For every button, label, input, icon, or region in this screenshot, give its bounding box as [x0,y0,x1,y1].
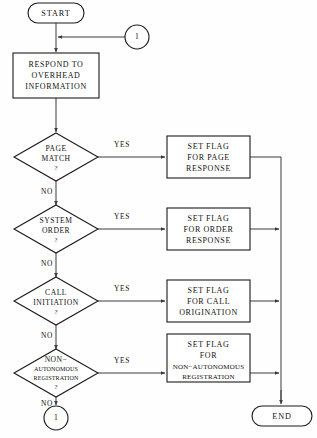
non-autonomous-question: ? [55,383,58,390]
flag-nonauto-line-4: REGISTRATION [182,373,235,381]
non-autonomous-line-1: NON− [45,355,68,364]
node-non-autonomous-registration[interactable]: NON− AUTONOMOUS REGISTRATION ? [14,349,98,397]
flag-nonauto-line-3: NON−AUTONOMOUS [173,363,245,371]
connector-in-label: 1 [135,32,139,41]
page-match-no-label: NO [41,187,53,196]
flag-page-line-2: FOR PAGE [187,153,230,162]
flag-page-line-1: SET FLAG [188,142,230,151]
flag-nonauto-line-1: SET FLAG [188,340,230,349]
node-connector-out[interactable]: 1 [44,406,68,430]
node-set-flag-for-call-origination[interactable]: SET FLAG FOR CALL ORIGINATION [167,280,250,322]
system-order-yes-label: YES [114,212,130,221]
flag-order-line-3: RESPONSE [186,236,231,245]
flag-page-line-3: RESPONSE [186,164,231,173]
call-initiation-question: ? [55,308,58,315]
end-label: END [272,412,292,421]
page-match-yes-label: YES [114,140,130,149]
node-connector-in[interactable]: 1 [125,25,149,49]
system-order-no-label: NO [41,259,53,268]
flag-call-line-3: ORIGINATION [179,308,238,317]
start-label: START [41,9,70,18]
flag-nonauto-line-2: FOR [200,351,217,360]
node-set-flag-for-page-response[interactable]: SET FLAG FOR PAGE RESPONSE [167,136,250,178]
non-autonomous-line-2: AUTONOMOUS [34,366,79,372]
respond-line-2: OVERHEAD [32,71,81,80]
node-page-match[interactable]: PAGE MATCH ? [14,133,98,181]
system-order-line-2: ORDER [42,226,71,235]
respond-line-3: INFORMATION [25,82,87,91]
node-start[interactable]: START [28,3,84,23]
flag-call-line-1: SET FLAG [188,286,230,295]
page-match-question: ? [55,164,58,171]
page-match-line-1: PAGE [45,144,66,153]
call-initiation-line-2: INITIATION [33,298,79,307]
respond-line-1: RESPOND TO [29,60,84,69]
node-system-order[interactable]: SYSTEM ORDER ? [14,205,98,253]
non-autonomous-yes-label: YES [114,356,130,365]
edge-merge-trunk [250,157,281,400]
node-call-initiation[interactable]: CALL INITIATION ? [14,277,98,325]
node-end[interactable]: END [252,406,312,426]
call-initiation-no-label: NO [41,331,53,340]
node-set-flag-for-non-autonomous-registration[interactable]: SET FLAG FOR NON−AUTONOMOUS REGISTRATION [167,334,250,382]
call-initiation-yes-label: YES [114,284,130,293]
flag-order-line-2: FOR ORDER [183,225,233,234]
connector-out-label: 1 [54,413,58,422]
call-initiation-line-1: CALL [45,288,67,297]
non-autonomous-line-3: REGISTRATION [34,375,79,381]
flag-call-line-2: FOR CALL [187,297,230,306]
flowchart-canvas: START 1 RESPOND TO OVERHEAD INFORMATION … [0,0,317,438]
system-order-line-1: SYSTEM [40,216,73,225]
system-order-question: ? [55,236,58,243]
flowchart-svg: START 1 RESPOND TO OVERHEAD INFORMATION … [0,0,317,438]
non-autonomous-no-label: NO [41,399,53,408]
node-set-flag-for-order-response[interactable]: SET FLAG FOR ORDER RESPONSE [167,208,250,250]
flag-order-line-1: SET FLAG [188,214,230,223]
page-match-line-2: MATCH [41,154,70,163]
node-respond-to-overhead-information[interactable]: RESPOND TO OVERHEAD INFORMATION [13,53,99,98]
